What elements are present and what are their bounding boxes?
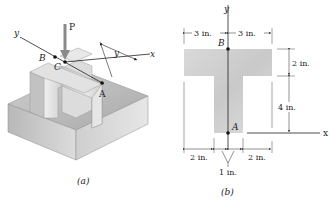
- offset-extension-1: [100, 42, 112, 77]
- dim-bottom-left-label: 2 in.: [190, 153, 208, 162]
- point-a-a: [100, 81, 104, 85]
- load-label: P: [69, 22, 75, 32]
- dim-top-right-label: 3 in.: [238, 29, 256, 38]
- point-b-label-a: B: [38, 53, 46, 63]
- axis-x-label-b: x: [323, 128, 328, 138]
- dim-flange-height-label: 2 in.: [292, 59, 310, 68]
- point-b-a: [53, 55, 57, 59]
- offset-label: y: [113, 48, 120, 58]
- caption-b: (b): [221, 187, 234, 197]
- figure-b: y x B A 3 in. 3 in. 2 in. 4 in.: [184, 4, 328, 197]
- dim-web-width-label: 1 in.: [219, 168, 237, 177]
- caption-a: (a): [77, 176, 90, 186]
- web-width-leader: [222, 151, 234, 163]
- point-b-label-b: B: [217, 38, 225, 48]
- dim-bottom-right-label: 2 in.: [248, 153, 266, 162]
- dim-web-height-label: 4 in.: [278, 103, 296, 112]
- dim-top-left-label: 3 in.: [194, 29, 212, 38]
- figure-a: P y x y B C A (a): [8, 22, 155, 186]
- point-a-label-b: A: [231, 122, 239, 132]
- figure-canvas: P y x y B C A (a) y x B A: [0, 0, 330, 203]
- point-b-b: [226, 47, 230, 51]
- point-c-label: C: [54, 62, 61, 72]
- axis-x-label-a: x: [150, 49, 155, 59]
- axis-y-label-a: y: [13, 28, 20, 38]
- point-a-b: [226, 131, 230, 135]
- axis-y-label-b: y: [223, 4, 230, 14]
- point-a-label-a: A: [98, 89, 106, 99]
- point-c-a: [63, 60, 67, 64]
